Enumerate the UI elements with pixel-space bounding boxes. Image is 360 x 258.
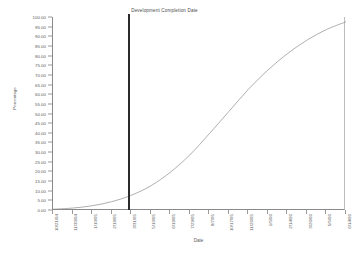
x-axis-tick-mark	[247, 210, 248, 214]
y-axis-tick-label: 10.00	[35, 188, 46, 193]
y-axis-tick-label: 85.00	[35, 43, 46, 48]
x-axis-title: Date	[52, 238, 345, 243]
x-axis-tick-mark	[286, 210, 287, 214]
x-axis-tick-mark	[150, 210, 151, 214]
y-axis-tick-label: 5.00	[37, 198, 46, 203]
y-axis-tick-label: 40.00	[35, 130, 46, 135]
x-axis-tick-mark	[208, 210, 209, 214]
y-axis-tick-label: 90.00	[35, 34, 46, 39]
x-axis-tick-mark	[91, 210, 92, 214]
x-axis-tick-label: 3/31/05	[132, 214, 137, 229]
y-axis-title: Percentage	[12, 69, 17, 129]
x-axis-tick-mark	[306, 210, 307, 214]
x-axis-tick-label: 11/26/05	[249, 214, 254, 231]
development-completion-marker	[128, 14, 130, 210]
y-axis-tick-label: 35.00	[35, 140, 46, 145]
y-axis-tick-label: 55.00	[35, 101, 46, 106]
x-axis-tick-mark	[52, 210, 53, 214]
x-axis-tick-mark	[111, 210, 112, 214]
x-axis-tick-mark	[169, 210, 170, 214]
curve-line	[53, 17, 346, 210]
x-axis-tick-label: 10/21/04	[54, 214, 59, 231]
x-axis-tick-label: 1/5/06	[268, 214, 273, 226]
y-axis-tick-label: 45.00	[35, 121, 46, 126]
x-axis-tick-mark	[228, 210, 229, 214]
x-axis-tick-mark	[72, 210, 73, 214]
y-axis-tick-label: 0.00	[37, 208, 46, 213]
x-axis-tick-label: 1/10/05	[93, 214, 98, 229]
plot-area	[52, 17, 345, 210]
x-axis-tick-label: 2/19/05	[112, 214, 117, 229]
y-axis-tick-label: 30.00	[35, 150, 46, 155]
x-axis-tick-label: 6/19/05	[171, 214, 176, 229]
x-axis-tick-label: 5/5/06	[327, 214, 332, 226]
y-axis-tick-label: 50.00	[35, 111, 46, 116]
x-axis-tick-label: 3/26/06	[308, 214, 313, 229]
x-axis-tick-label: 6/14/06	[347, 214, 352, 229]
x-axis-tick-label: 2/14/06	[288, 214, 293, 229]
y-axis-tick-label: 95.00	[35, 24, 46, 29]
x-axis-tick-mark	[267, 210, 268, 214]
y-axis-tick-label: 80.00	[35, 53, 46, 58]
x-axis-tick-mark	[130, 210, 131, 214]
s-curve-chart: 0.005.0010.0015.0020.0025.0030.0035.0040…	[0, 0, 360, 258]
x-axis-tick-label: 9/7/05	[210, 214, 215, 226]
x-axis-tick-mark	[345, 210, 346, 214]
x-axis-tick-label: 7/29/05	[190, 214, 195, 229]
x-axis-tick-label: 5/10/05	[151, 214, 156, 229]
development-completion-label: Development Completion Date	[131, 8, 198, 13]
y-axis-tick-label: 65.00	[35, 82, 46, 87]
x-axis-tick-mark	[189, 210, 190, 214]
y-axis: 0.005.0010.0015.0020.0025.0030.0035.0040…	[0, 17, 52, 210]
x-axis-tick-mark	[325, 210, 326, 214]
y-axis-tick-label: 15.00	[35, 179, 46, 184]
y-axis-tick-label: 20.00	[35, 169, 46, 174]
y-axis-tick-label: 60.00	[35, 92, 46, 97]
x-axis-tick-label: 11/30/04	[73, 214, 78, 231]
x-axis-tick-label: 10/17/05	[229, 214, 234, 231]
y-axis-tick-label: 75.00	[35, 63, 46, 68]
y-axis-tick-label: 25.00	[35, 159, 46, 164]
y-axis-tick-label: 100.00	[33, 15, 46, 20]
y-axis-tick-label: 70.00	[35, 72, 46, 77]
